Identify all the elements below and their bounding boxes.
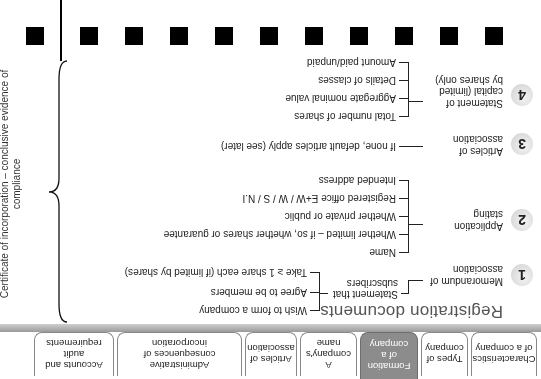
connector: [408, 224, 423, 225]
connector: [399, 180, 409, 181]
connector: [399, 116, 409, 117]
page: Characteristics of a company Types of co…: [0, 0, 541, 379]
step-1-label: Memorandum of association: [423, 264, 503, 287]
tab-accounts[interactable]: Accounts and audit requirements: [34, 332, 114, 376]
tab-types[interactable]: Types of company: [421, 332, 468, 376]
page-title: Registration documents: [320, 301, 503, 321]
tab-articles[interactable]: Articles of association: [245, 332, 297, 376]
connector: [408, 280, 409, 294]
binding-hole: [395, 27, 413, 45]
connector: [399, 62, 409, 63]
connector: [320, 293, 328, 294]
binding-hole: [170, 27, 188, 45]
step-2-leaf: Whether private or public: [285, 211, 396, 222]
tab-label: Accounts and audit requirements: [39, 338, 109, 371]
tab-characteristics[interactable]: Characteristics of a company: [471, 332, 537, 376]
step-1-leaf: Agree to be members: [211, 287, 307, 298]
tab-label: Types of company: [425, 344, 464, 366]
tab-formation[interactable]: Formation of a company: [360, 332, 418, 379]
step-3-badge: 3: [511, 133, 533, 155]
step-4-leaf: Total number of shares: [294, 111, 396, 122]
step-2-leaf: Intended address: [319, 175, 396, 186]
step-3-leaf: If none, default articles apply (see lat…: [221, 141, 396, 152]
step-2-leaf: Whether limited – if so, whether shares …: [164, 229, 396, 240]
binding-hole: [215, 27, 233, 45]
binding-hole: [125, 27, 143, 45]
connector: [310, 310, 320, 311]
step-1-leaf: Wish to form a company: [199, 305, 307, 316]
binding-hole: [260, 27, 278, 45]
step-1-leaf: Take ≥ 1 share each (if limited by share…: [125, 267, 307, 278]
tab-label: Formation of a company: [365, 340, 413, 373]
connector: [399, 234, 409, 235]
connector: [399, 98, 409, 99]
step-4-leaf: Aggregate nominal value: [285, 93, 396, 104]
connector: [310, 292, 320, 293]
step-2-badge: 2: [511, 209, 533, 231]
step-4-badge: 4: [511, 84, 533, 106]
connector: [399, 216, 409, 217]
certificate-note: Certificate of incorporation – conclusiv…: [0, 64, 49, 304]
step-2-label: Application stating: [443, 209, 503, 232]
tab-bar: Characteristics of a company Types of co…: [0, 332, 541, 379]
binding-hole: [26, 27, 44, 45]
step-3-label: Articles of association: [443, 134, 503, 157]
binding-hole: [80, 27, 98, 45]
connector: [399, 198, 409, 199]
connector: [399, 80, 409, 81]
tab-label: Administrative consequences of incorpora…: [122, 338, 237, 371]
connector: [310, 272, 320, 273]
tab-company-name[interactable]: A company's name: [300, 332, 357, 376]
binding-hole: [485, 27, 503, 45]
connector: [408, 62, 409, 117]
tab-label: Articles of association: [247, 344, 295, 366]
curly-brace-icon: [47, 59, 69, 324]
connector: [401, 293, 409, 294]
connector: [399, 146, 423, 147]
connector: [409, 280, 423, 281]
connector: [399, 252, 409, 253]
binding-divider: [61, 0, 63, 61]
binding-hole: [440, 27, 458, 45]
tab-administrative[interactable]: Administrative consequences of incorpora…: [117, 332, 242, 376]
connector: [408, 181, 409, 253]
binding-hole: [305, 27, 323, 45]
step-2-leaf: Registered office E+W / W / S / N.I: [243, 193, 396, 204]
step-2-leaf: Name: [369, 247, 396, 258]
connector: [408, 101, 423, 102]
tab-label: A company's name: [305, 338, 352, 371]
step-1-badge: 1: [511, 264, 533, 286]
binding-hole: [350, 27, 368, 45]
step-4-leaf: Details of classes: [318, 75, 396, 86]
step-4-label: Statement of capital (limited by shares …: [433, 75, 503, 110]
step-4-leaf: Amount paid/unpaid: [307, 57, 396, 68]
step-1-sub: Statement that subscribers: [328, 278, 398, 300]
tab-label: Characteristics of a company: [473, 344, 536, 366]
tab-bar-shadow: [0, 324, 541, 332]
